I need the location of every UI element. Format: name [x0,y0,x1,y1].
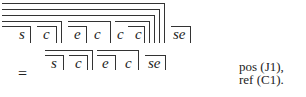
bracket-se-right [190,26,191,43]
bracket-top-3 [2,15,155,16]
symbol-c: c [125,56,132,71]
bracket-bottom-group1-right [92,50,93,70]
bracket-right-2 [159,9,160,43]
bracket-e-right [86,26,87,43]
equals-sign: = [18,66,27,82]
bracket-group3 [115,21,150,22]
bracket-bottom-group2-right [138,50,139,70]
bracket-bottom-group1 [45,50,93,51]
bracket-bottom-group2 [97,50,139,51]
bracket-right-3 [154,15,155,43]
bracket-bottom-e-right [115,55,116,70]
bracket-top-2 [2,9,160,10]
symbol-c: c [135,27,142,42]
symbol-e: e [102,56,109,71]
symbol-s: s [19,27,25,42]
bracket-right-outer [164,3,165,43]
bracket-bottom-s-right [63,55,64,70]
bracket-c3-right [144,26,145,43]
bracket-s [2,26,31,27]
bracket-group3-right [149,21,150,43]
bracket-group2-right [110,21,111,43]
bracket-bottom-c-right [87,55,88,70]
annotation-ref: ref (C1). [239,73,284,86]
symbol-c: c [117,27,124,42]
bracket-top-outer [2,3,165,4]
symbol-c: c [43,27,50,42]
bracket-group2 [68,21,111,22]
symbol-s: s [51,56,57,71]
symbol-se: se [148,56,161,71]
symbol-c: c [94,27,101,42]
bracket-group1 [2,21,62,22]
symbol-e: e [74,27,81,42]
bracket-group1-right [61,21,62,43]
bracket-bottom-se-right [165,55,166,70]
bracket-s-right [30,26,31,43]
bracket-c1-right [56,26,57,43]
symbol-se: se [173,27,186,42]
symbol-c: c [75,56,82,71]
